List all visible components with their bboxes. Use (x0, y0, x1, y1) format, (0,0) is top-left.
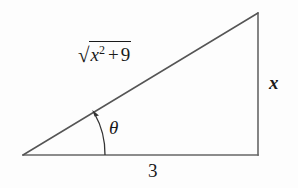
adjacent-side-label: 3 (148, 161, 158, 180)
triangle-hypotenuse-line (23, 13, 258, 155)
radicand: x2+9 (89, 41, 132, 64)
radicand-addend: 9 (121, 44, 131, 65)
angle-arc (95, 114, 106, 156)
radicand-variable: x (91, 44, 99, 65)
hypotenuse-label: √x2+9 (76, 41, 131, 66)
triangle-figure: √x2+9 x 3 θ (0, 0, 298, 188)
radical-expression: √x2+9 (76, 41, 131, 66)
opposite-side-label: x (269, 73, 279, 92)
radicand-exponent: 2 (99, 43, 105, 57)
angle-label: θ (109, 118, 118, 137)
radicand-operator: + (108, 44, 119, 65)
